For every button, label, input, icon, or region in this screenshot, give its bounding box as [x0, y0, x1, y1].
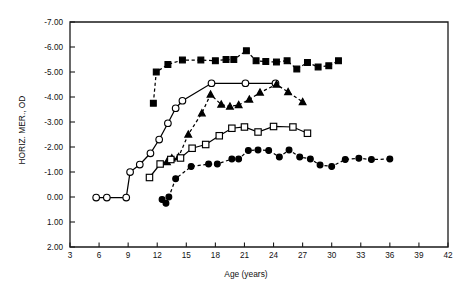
data-point	[163, 200, 169, 206]
y-tick-label: -4.00	[44, 93, 63, 102]
x-tick-label: 12	[153, 251, 163, 260]
x-tick-label: 30	[327, 251, 337, 260]
data-point	[229, 156, 235, 162]
data-point	[294, 66, 300, 72]
data-point	[290, 124, 296, 130]
y-tick-label: -3.00	[44, 118, 63, 127]
data-point	[315, 64, 321, 70]
y-axis-tick-labels: -7.00-6.00-5.00-4.00-3.00-2.00-1.000.001…	[44, 18, 63, 252]
data-point	[276, 154, 282, 160]
data-point	[266, 148, 272, 154]
x-axis-title: Age (years)	[224, 269, 267, 279]
data-point	[198, 57, 204, 63]
data-point	[157, 161, 163, 167]
x-tick-label: 33	[356, 251, 366, 260]
data-point	[244, 48, 250, 54]
data-point	[223, 57, 229, 63]
data-point	[173, 176, 179, 182]
data-point	[177, 155, 183, 161]
data-point	[246, 96, 253, 102]
y-tick-label: -6.00	[44, 43, 63, 52]
data-point	[235, 101, 242, 107]
data-point	[153, 69, 159, 75]
data-point	[206, 161, 212, 167]
data-point	[329, 164, 335, 170]
series-subject-4	[146, 123, 310, 180]
data-point	[93, 194, 100, 201]
line-chart: 3691215182124273033363942 -7.00-6.00-5.0…	[0, 0, 476, 293]
chart-container: 3691215182124273033363942 -7.00-6.00-5.0…	[0, 0, 476, 293]
data-point	[146, 174, 152, 180]
y-tick-label: -2.00	[44, 143, 63, 152]
y-tick-label: 2.00	[47, 243, 63, 252]
data-point	[198, 110, 205, 116]
x-tick-label: 18	[211, 251, 221, 260]
x-tick-label: 15	[182, 251, 192, 260]
data-point	[304, 130, 310, 136]
data-point	[245, 148, 251, 154]
data-point	[270, 123, 276, 129]
data-point	[212, 58, 218, 64]
data-point	[214, 161, 220, 167]
data-point	[255, 129, 261, 135]
x-tick-label: 9	[126, 251, 131, 260]
data-point	[369, 157, 375, 163]
data-point	[168, 156, 174, 162]
y-tick-label: -7.00	[44, 18, 63, 27]
y-tick-label: 1.00	[47, 218, 63, 227]
data-point	[180, 57, 186, 63]
data-point	[188, 164, 194, 170]
data-point	[307, 156, 313, 162]
series-subject-1	[150, 48, 341, 106]
y-axis-title: HORIZ. MER., OD	[17, 96, 27, 165]
data-point	[208, 80, 215, 87]
data-point	[387, 156, 393, 162]
data-point	[202, 141, 208, 147]
data-point	[231, 57, 237, 63]
data-point	[297, 154, 303, 160]
data-point	[356, 155, 362, 161]
data-point	[253, 58, 259, 64]
x-tick-label: 6	[97, 251, 102, 260]
x-tick-label: 42	[443, 251, 453, 260]
data-point	[263, 59, 269, 65]
y-tick-label: 0.00	[47, 193, 63, 202]
data-point	[166, 194, 172, 200]
data-point	[207, 91, 214, 97]
data-point	[136, 161, 143, 168]
data-point	[274, 59, 280, 65]
data-point	[229, 125, 235, 131]
data-point	[255, 147, 261, 153]
y-tick-label: -5.00	[44, 68, 63, 77]
x-tick-label: 27	[298, 251, 308, 260]
data-point	[172, 105, 179, 112]
data-point	[285, 88, 292, 94]
data-point	[104, 194, 111, 201]
data-point	[242, 80, 249, 87]
x-tick-label: 36	[385, 251, 395, 260]
x-tick-label: 3	[68, 251, 73, 260]
data-point	[127, 169, 134, 176]
data-point	[189, 145, 195, 151]
data-point	[179, 97, 186, 104]
data-point	[342, 157, 348, 163]
data-point	[284, 58, 290, 64]
data-point	[336, 58, 342, 64]
x-tick-label: 39	[414, 251, 424, 260]
data-point	[236, 156, 242, 162]
x-tick-label: 21	[240, 251, 250, 260]
data-point	[156, 136, 163, 143]
data-point	[147, 150, 154, 157]
data-point	[317, 162, 323, 168]
data-point	[326, 63, 332, 69]
data-point	[257, 89, 264, 95]
x-tick-label: 24	[269, 251, 279, 260]
data-series-group	[93, 48, 393, 206]
data-point	[165, 120, 172, 127]
data-point	[299, 98, 306, 104]
data-point	[165, 62, 171, 68]
y-tick-label: -1.00	[44, 168, 63, 177]
data-point	[286, 147, 292, 153]
data-point	[150, 100, 156, 106]
x-axis-tick-labels: 3691215182124273033363942	[68, 251, 453, 260]
